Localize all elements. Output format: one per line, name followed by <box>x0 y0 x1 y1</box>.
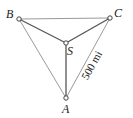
node-c <box>108 16 112 20</box>
edge-b-c <box>19 18 110 19</box>
label-b: B <box>6 7 14 21</box>
distance-label: 500 mi <box>79 49 104 82</box>
label-c: C <box>114 6 123 20</box>
node-b <box>17 17 21 21</box>
label-s: S <box>67 44 73 58</box>
label-a: A <box>61 102 70 116</box>
node-a <box>64 96 68 100</box>
diagram-canvas: B C S A 500 mi <box>0 0 133 118</box>
triangle-diagram: B C S A 500 mi <box>0 0 133 118</box>
